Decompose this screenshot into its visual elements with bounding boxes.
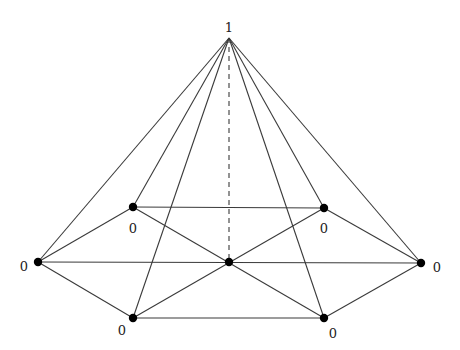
node-right	[417, 259, 425, 267]
edge-left-bottom-left	[38, 262, 133, 318]
edge-apex-bottom-left	[133, 38, 229, 318]
edge-left-top-left	[38, 207, 133, 262]
labels-group: 1000000	[20, 20, 441, 341]
node-bottom-right	[320, 314, 328, 322]
edge-apex-bottom-right	[229, 38, 324, 318]
edge-top-left-top-right	[133, 207, 324, 208]
label-right: 0	[433, 260, 441, 275]
label-top-right: 0	[320, 221, 328, 236]
edge-apex-top-right	[229, 38, 324, 208]
edges-group	[38, 38, 421, 318]
node-center	[225, 258, 233, 266]
node-bottom-left	[129, 314, 137, 322]
label-left: 0	[20, 259, 28, 274]
label-bottom-right: 0	[329, 326, 337, 341]
edge-apex-top-left	[133, 38, 229, 207]
label-apex: 1	[225, 20, 233, 35]
label-top-left: 0	[129, 221, 137, 236]
edge-right-bottom-right	[324, 263, 421, 318]
node-left	[34, 258, 42, 266]
pyramid-diagram: 1000000	[0, 0, 460, 350]
node-top-left	[129, 203, 137, 211]
label-bottom-left: 0	[118, 323, 126, 338]
node-top-right	[320, 204, 328, 212]
edge-right-top-right	[324, 208, 421, 263]
